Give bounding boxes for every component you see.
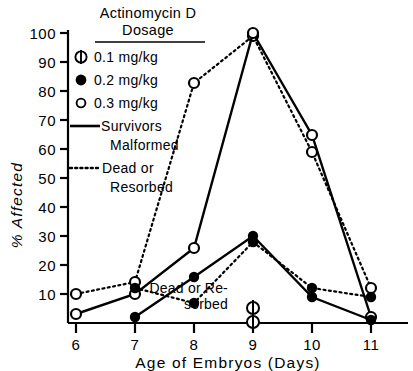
y-tick-label: 100 [29,25,56,42]
x-tick-label: 8 [190,336,199,353]
y-tick-label: 60 [38,141,56,158]
legend: Actinomycin D Dosage 0.1 mg/kg 0.2 mg/kg… [70,5,205,195]
x-axis-ticks [76,323,371,333]
data-point [248,231,258,241]
legend-title-line-2: Dosage [122,22,174,38]
data-point [189,78,199,88]
legend-label: Dead or [102,160,154,176]
data-point [366,292,376,302]
y-tick-label: 20 [38,257,56,274]
legend-item-03: 0.3 mg/kg [77,95,159,111]
series-02-dead-resorbed [130,237,376,308]
x-tick-label: 9 [249,336,258,353]
data-point [189,243,199,253]
legend-label: 0.2 mg/kg [94,72,158,88]
legend-item-survivors-malformed: Survivors Malformed [70,118,179,153]
data-point [71,289,81,299]
legend-title-line-1: Actinomycin D [100,5,197,21]
x-axis-title: Age of Embryos (Days) [135,354,320,371]
data-point [248,28,258,38]
y-tick-label: 30 [38,228,56,245]
filled-circle-icon [76,75,87,86]
data-point [130,312,140,322]
legend-label: Malformed [110,137,179,153]
legend-label: 0.1 mg/kg [94,49,158,65]
crossed-circle-marker [247,300,259,316]
chart-svg: 100 90 80 70 60 50 40 30 20 10 6 7 8 9 1… [0,0,413,371]
x-tick-label: 11 [363,336,380,353]
y-tick-label: 10 [38,286,56,303]
legend-item-dead-resorbed: Dead or Resorbed [70,160,173,195]
crossed-circle-marker [247,314,259,330]
crossed-circle-icon [75,50,86,64]
chart-container: 100 90 80 70 60 50 40 30 20 10 6 7 8 9 1… [0,0,413,371]
annotation-line-1: Dead or Re- [150,280,229,296]
y-axis-title: % Affected [8,162,25,249]
x-tick-label: 7 [131,336,140,353]
y-axis-tick-labels: 100 90 80 70 60 50 40 30 20 10 [29,25,56,303]
legend-item-02: 0.2 mg/kg [76,72,159,88]
x-tick-label: 6 [72,336,81,353]
y-tick-label: 70 [38,112,56,129]
series-01-markers [247,300,259,330]
data-point [307,292,317,302]
x-axis-tick-labels: 6 7 8 9 10 11 [72,336,380,353]
data-point [366,315,376,325]
legend-label: 0.3 mg/kg [94,95,158,111]
annotation-line-2: sorbed [184,296,228,312]
y-axis-ticks [60,33,68,294]
data-point [366,283,376,293]
x-tick-label: 10 [303,336,321,353]
data-point [71,309,81,319]
y-tick-label: 40 [38,199,56,216]
legend-label: Survivors [101,118,162,134]
y-tick-label: 90 [38,54,56,71]
legend-label: Resorbed [110,179,173,195]
data-point [130,283,140,293]
open-circle-icon [77,99,86,108]
legend-item-01: 0.1 mg/kg [75,49,158,65]
y-tick-label: 80 [38,83,56,100]
data-point [307,130,317,140]
y-tick-label: 50 [38,170,56,187]
plot-annotation: Dead or Re- sorbed [150,280,229,312]
